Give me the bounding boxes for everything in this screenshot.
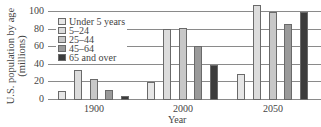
bar (269, 12, 277, 100)
bar (253, 5, 261, 100)
bar (74, 70, 82, 100)
bar (284, 24, 292, 100)
y-tick-label: 20 (22, 75, 44, 86)
y-tick-label: 60 (22, 40, 44, 51)
x-axis-label: Year (168, 114, 186, 125)
legend-swatch (58, 54, 66, 61)
legend-label: 65 and over (69, 53, 116, 62)
legend-item: 65 and over (58, 53, 125, 62)
y-tick-label: 80 (22, 23, 44, 34)
bar (300, 12, 308, 100)
y-tick-label: 100 (22, 5, 44, 16)
y-tick-label: 40 (22, 58, 44, 69)
x-tick-label: 1900 (74, 103, 114, 114)
y-axis-label: U.S. population by age (millions) (5, 6, 27, 106)
y-axis-label-line-2: (millions) (16, 6, 27, 106)
legend-swatch (58, 45, 66, 52)
bar (105, 90, 113, 100)
bar (121, 96, 129, 100)
legend-swatch (58, 18, 66, 25)
legend-swatch (58, 27, 66, 34)
bar (147, 82, 155, 100)
x-tick-label: 2000 (163, 103, 203, 114)
bar (210, 65, 218, 100)
x-tick-label: 2050 (253, 103, 293, 114)
legend: Under 5 years5–2425–4445–6465 and over (56, 17, 127, 62)
bar (163, 29, 171, 100)
y-axis-label-line-1: U.S. population by age (5, 6, 16, 106)
bar-chart: U.S. population by age (millions) 020406… (0, 0, 321, 127)
legend-swatch (58, 36, 66, 43)
bar (179, 28, 187, 100)
gridline (48, 11, 321, 12)
bar (194, 46, 202, 100)
bar (90, 79, 98, 100)
bar (58, 91, 66, 100)
bar (237, 74, 245, 100)
y-tick-label: 0 (22, 93, 44, 104)
